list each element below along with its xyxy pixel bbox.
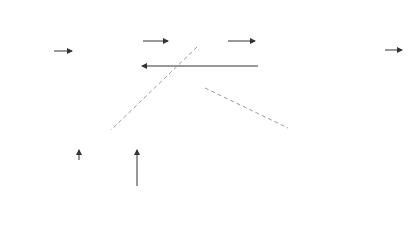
connector-lines (0, 0, 420, 231)
